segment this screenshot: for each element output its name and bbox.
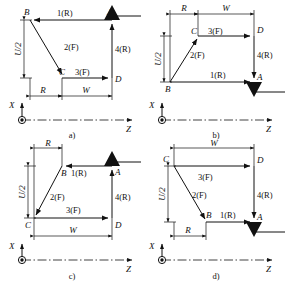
dimension-label-w: W [222,3,231,13]
point-label-d: D [256,155,264,165]
panel-c-drawing: A B C D 1(R) 2(F) 3(F) 4(R) U/2 R W X Z … [0,140,144,281]
panel-caption-c: c) [69,271,76,281]
ground-triangle-icon [104,151,120,166]
segment-label-1: 1(R) [57,8,73,18]
dimension-label-w: W [210,138,219,148]
segment-label-4: 4(R) [115,44,131,54]
segment-label-2: 2(F) [190,50,205,60]
point-label-b: B [165,84,171,94]
x-axis-label: X [148,241,155,251]
segment-label-2: 2(F) [64,42,79,52]
panel-b-drawing: A B C D 1(R) 2(F) 3(F) 4(R) U/2 R W X Z … [144,0,288,140]
dimension-label-u-half: U/2 [153,52,163,66]
segment-2-line [36,166,62,215]
z-axis-label: Z [266,264,272,274]
origin-dot-icon [20,118,23,121]
segment-2-line [30,20,62,74]
ground-triangle-icon [246,82,262,97]
point-label-a: A [256,72,263,82]
point-label-c: C [59,67,66,77]
point-label-a: A [256,212,263,222]
point-label-c: C [25,220,32,230]
segment-label-4: 4(R) [257,50,273,60]
origin-dot-icon [160,118,163,121]
point-label-d: D [114,74,122,84]
dimension-label-r: R [44,138,51,148]
segment-label-1: 1(R) [210,70,226,80]
origin-dot-icon [20,258,23,261]
point-label-c: C [163,154,170,164]
segment-label-4: 4(R) [257,190,273,200]
origin-dot-icon [160,258,163,261]
panel-d-drawing: A B C D 1(R) 2(F) 3(F) 4(R) U/2 W R X Z … [144,140,288,281]
dimension-label-r: R [180,3,187,13]
point-label-d: D [256,25,264,35]
dimension-label-w: W [82,85,91,95]
segment-label-3: 3(F) [75,67,90,77]
dimension-label-u-half: U/2 [17,185,27,199]
x-axis-label: X [148,100,155,110]
panel-a: A B C D 1(R) 2(F) 3(F) 4(R) U/2 R W X Z … [0,0,144,140]
segment-2-line [170,39,197,82]
z-axis-label: Z [126,264,132,274]
segment-label-3: 3(F) [208,26,223,36]
figure-four-panel-diagram: A B C D 1(R) 2(F) 3(F) 4(R) U/2 R W X Z … [0,0,288,281]
point-label-b: B [24,7,30,17]
panel-c: A B C D 1(R) 2(F) 3(F) 4(R) U/2 R W X Z … [0,140,144,281]
x-axis-label: X [8,100,15,110]
point-label-a: A [114,167,121,177]
panel-d: A B C D 1(R) 2(F) 3(F) 4(R) U/2 W R X Z … [144,140,288,281]
segment-label-1: 1(R) [71,168,87,178]
dimension-label-r: R [184,225,191,235]
dimension-label-w: W [69,225,78,235]
ground-triangle-icon [246,222,262,237]
point-label-d: D [114,220,122,230]
z-axis-label: Z [126,124,132,134]
point-label-b: B [61,168,67,178]
panel-caption-d: d) [212,271,219,281]
segment-label-4: 4(R) [115,192,131,202]
point-label-b: B [206,210,212,220]
segment-label-1: 1(R) [220,210,236,220]
segment-label-3: 3(F) [66,205,81,215]
point-label-c: C [191,26,198,36]
dimension-label-u-half: U/2 [13,42,23,56]
z-axis-label: Z [266,124,272,134]
dimension-label-u-half: U/2 [157,187,167,201]
panel-b: A B C D 1(R) 2(F) 3(F) 4(R) U/2 R W X Z … [144,0,288,140]
panel-caption-a: a) [69,130,76,140]
segment-label-2: 2(F) [192,190,207,200]
point-label-a: A [106,7,113,17]
panel-a-drawing: A B C D 1(R) 2(F) 3(F) 4(R) U/2 R W X Z … [0,0,144,140]
segment-label-2: 2(F) [50,192,65,202]
segment-label-3: 3(F) [198,172,213,182]
dimension-label-r: R [39,85,46,95]
x-axis-label: X [8,241,15,251]
